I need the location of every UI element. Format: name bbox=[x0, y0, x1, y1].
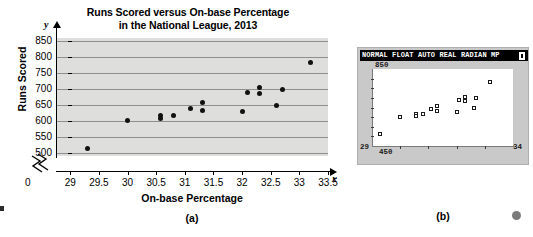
calculator-status-text: NORMAL FLOAT AUTO REAL RADIAN MP bbox=[362, 51, 500, 59]
calculator-y-tick bbox=[371, 127, 374, 128]
data-point bbox=[200, 108, 205, 113]
calculator-data-point bbox=[414, 114, 418, 118]
gridline bbox=[56, 73, 328, 74]
y-axis-tick-mark bbox=[68, 137, 72, 138]
gridline bbox=[56, 89, 328, 90]
chart-title-line-2: in the National League, 2013 bbox=[38, 19, 338, 32]
page-edge-artifact bbox=[0, 206, 4, 211]
y-axis-tick-mark bbox=[68, 57, 72, 58]
calculator-y-tick bbox=[371, 98, 374, 99]
panel-b-caption: (b) bbox=[357, 210, 529, 222]
x-axis-tick-mark bbox=[242, 171, 243, 175]
y-axis-arrow-icon bbox=[53, 21, 61, 28]
calculator-data-point bbox=[488, 80, 492, 84]
calculator-x-tick bbox=[428, 146, 429, 149]
data-point bbox=[200, 100, 205, 105]
gridline bbox=[56, 153, 328, 154]
panel-a-caption: (a) bbox=[56, 212, 328, 224]
bullet-dot-icon bbox=[512, 211, 521, 220]
calculator-data-point bbox=[457, 98, 461, 102]
calculator-data-point bbox=[455, 110, 459, 114]
panel-a-textbook-scatterplot: Runs Scored versus On-base Percentage in… bbox=[0, 0, 350, 237]
data-point bbox=[257, 91, 262, 96]
data-point bbox=[158, 116, 163, 121]
y-axis-tick-mark bbox=[68, 89, 72, 90]
calculator-xmax-label: 34 bbox=[513, 143, 522, 151]
y-axis-tick-mark bbox=[68, 105, 72, 106]
calculator-data-point bbox=[463, 99, 467, 103]
calculator-data-point bbox=[398, 115, 402, 119]
calculator-x-tick bbox=[400, 146, 401, 149]
calculator-status-bar: NORMAL FLOAT AUTO REAL RADIAN MP bbox=[360, 50, 528, 61]
x-axis-tick-mark bbox=[156, 171, 157, 175]
x-axis-tick-label: 33.5 bbox=[308, 177, 348, 188]
calculator-ymax-label: 850 bbox=[375, 61, 389, 69]
x-axis-tick-mark bbox=[271, 171, 272, 175]
data-point bbox=[125, 118, 130, 123]
y-axis-tick-mark bbox=[68, 121, 72, 122]
calculator-data-point bbox=[378, 132, 382, 136]
data-point bbox=[171, 113, 176, 118]
calculator-x-tick bbox=[457, 146, 458, 149]
calculator-data-point bbox=[429, 107, 433, 111]
data-point bbox=[257, 85, 262, 90]
calculator-x-axis bbox=[372, 146, 514, 147]
y-axis-tick-label: 550 bbox=[18, 131, 52, 142]
calculator-y-tick bbox=[371, 117, 374, 118]
calculator-data-point bbox=[421, 112, 425, 116]
calculator-data-point bbox=[435, 104, 439, 108]
gridline bbox=[56, 137, 328, 138]
x-axis-line bbox=[56, 171, 331, 172]
panel-b-calculator-screen: NORMAL FLOAT AUTO REAL RADIAN MP 850 450… bbox=[357, 47, 529, 165]
x-axis-tick-mark bbox=[299, 171, 300, 175]
x-axis-tick-mark bbox=[185, 171, 186, 175]
calculator-data-point bbox=[472, 106, 476, 110]
calculator-screen: NORMAL FLOAT AUTO REAL RADIAN MP 850 450… bbox=[357, 47, 529, 165]
x-axis-tick-mark bbox=[128, 171, 129, 175]
figure-container: Runs Scored versus On-base Percentage in… bbox=[0, 0, 533, 237]
chart-title: Runs Scored versus On-base Percentage in… bbox=[38, 6, 338, 32]
calculator-xmin-label: 29 bbox=[360, 143, 369, 151]
x-axis-title: On-base Percentage bbox=[56, 192, 328, 204]
calculator-data-point bbox=[474, 96, 478, 100]
axis-break-icon bbox=[30, 152, 56, 176]
calculator-ymin-label: 450 bbox=[379, 148, 393, 156]
calculator-y-tick bbox=[371, 108, 374, 109]
x-axis-tick-mark bbox=[328, 171, 329, 175]
data-point bbox=[188, 106, 193, 111]
origin-label: 0 bbox=[25, 177, 31, 188]
y-axis-title: Runs Scored bbox=[16, 29, 28, 129]
plot-area bbox=[56, 38, 328, 156]
chart-title-line-1: Runs Scored versus On-base Percentage bbox=[38, 6, 338, 19]
battery-icon bbox=[519, 52, 525, 60]
x-axis-tick-mark bbox=[213, 171, 214, 175]
calculator-data-point bbox=[435, 109, 439, 113]
calculator-y-tick bbox=[371, 136, 374, 137]
y-axis-line bbox=[56, 26, 57, 158]
x-axis-tick-mark bbox=[70, 171, 71, 175]
data-point bbox=[280, 87, 285, 92]
calculator-y-tick bbox=[371, 79, 374, 80]
gridline bbox=[56, 41, 328, 42]
x-axis-tick-mark bbox=[99, 171, 100, 175]
y-axis-tick-mark bbox=[68, 153, 72, 154]
y-axis-tick-mark bbox=[68, 73, 72, 74]
calculator-x-tick bbox=[485, 146, 486, 149]
gridline bbox=[56, 57, 328, 58]
gridline bbox=[56, 121, 328, 122]
y-axis-tick-mark bbox=[68, 41, 72, 42]
data-point bbox=[274, 103, 279, 108]
calculator-y-tick bbox=[371, 88, 374, 89]
